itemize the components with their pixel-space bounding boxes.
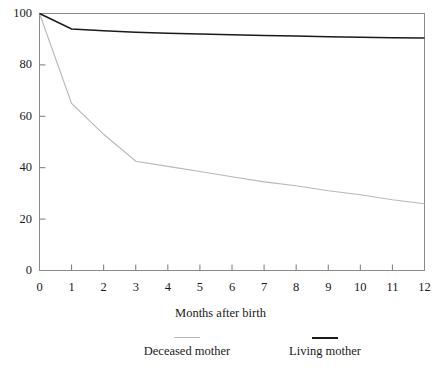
x-tick-label: 8 [284,281,308,294]
x-tick-label: 7 [252,281,276,294]
x-tick-label: 0 [28,281,52,294]
legend-label: Living mother [245,344,405,359]
x-tick-label: 5 [188,281,212,294]
x-tick-label: 2 [92,281,116,294]
y-tick-label: 40 [2,161,32,174]
x-tick-marks [72,265,393,271]
y-tick-label: 100 [2,7,32,20]
x-tick-label: 3 [124,281,148,294]
x-tick-label: 6 [220,281,244,294]
x-tick-label: 4 [156,281,180,294]
series-line-deceased-mother [40,14,425,204]
y-tick-label: 0 [2,264,32,277]
y-tick-marks [40,65,46,219]
x-tick-label: 11 [380,281,404,294]
x-tick-label: 1 [60,281,84,294]
legend-swatch-icon [107,333,267,343]
x-tick-label: 9 [316,281,340,294]
series-line-living-mother [40,14,425,38]
legend-entry: Living mother [245,333,405,359]
x-tick-label: 10 [348,281,372,294]
y-tick-label: 60 [2,110,32,123]
x-axis-title: Months after birth [0,306,441,321]
plot-frame [40,14,425,271]
y-tick-label: 20 [2,213,32,226]
legend-entry: Deceased mother [107,333,267,359]
y-tick-label: 80 [2,58,32,71]
legend-label: Deceased mother [107,344,267,359]
legend-swatch-icon [245,333,405,343]
chart-figure: Survival by mother's living status 02040… [0,0,441,369]
x-tick-label: 12 [413,281,437,294]
